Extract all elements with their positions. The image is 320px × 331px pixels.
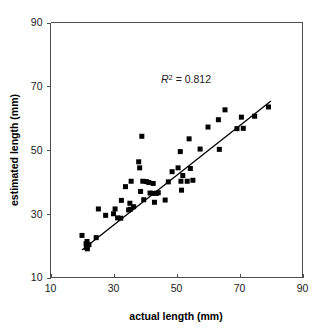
chart-canvas: 1030507090 1030507090 R2 = 0.812 actual … [0,0,320,331]
data-point [138,189,143,194]
data-point [137,165,142,170]
x-tick-label-90: 90 [297,282,309,294]
data-point [163,198,168,203]
regression-trendline [82,101,271,250]
data-point [136,159,141,164]
data-point [217,147,222,152]
y-tick-label-90: 90 [31,16,43,28]
data-point [119,198,124,203]
y-tick-labels: 1030507090 [31,16,43,283]
data-point [185,179,190,184]
data-point [266,104,271,109]
data-point [223,107,228,112]
data-point [103,213,108,218]
x-tick-label-70: 70 [234,282,246,294]
data-point [170,169,175,174]
r-squared-annotation: R2 = 0.812 [161,73,211,86]
data-point [180,173,185,178]
data-point [96,206,101,211]
x-axis-title: actual length (mm) [129,310,222,322]
y-tick-label-30: 30 [31,208,43,220]
data-point [190,178,195,183]
data-point [80,233,85,238]
scatter-plot-figure: 1030507090 1030507090 R2 = 0.812 actual … [0,0,320,331]
data-point [151,181,156,186]
y-tick-label-50: 50 [31,144,43,156]
x-tick-label-50: 50 [171,282,183,294]
data-point [176,165,181,170]
data-point [146,180,151,185]
data-point [241,126,246,131]
data-point [198,147,203,152]
data-point [187,136,192,141]
x-tick-label-30: 30 [108,282,120,294]
data-point [113,206,118,211]
x-tick-label-10: 10 [45,282,57,294]
data-point [139,134,144,139]
x-tick-labels: 1030507090 [45,282,309,294]
r-squared-value: = 0.812 [173,73,211,85]
data-point [216,117,221,122]
data-point [123,184,128,189]
y-tick-label-70: 70 [31,80,43,92]
y-axis-title: estimated length (mm) [8,94,20,206]
data-point [129,179,134,184]
data-point [239,115,244,120]
data-point [152,200,157,205]
y-tick-label-10: 10 [31,271,43,283]
data-point [178,179,183,184]
data-point [206,125,211,130]
data-point [179,188,184,193]
data-point [178,149,183,154]
